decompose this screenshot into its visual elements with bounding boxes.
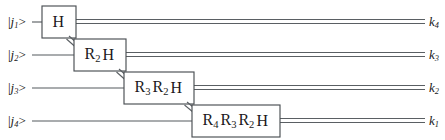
gate-label-3: R3R2H (124, 72, 194, 104)
gate-term: R2 (152, 79, 170, 98)
output-label-3: k2 (429, 81, 439, 97)
gate-term-base: H (52, 13, 64, 30)
gate-term-base: R (238, 111, 249, 128)
input-label-3: |j3> (8, 81, 26, 97)
output-label-4-subscript: 1 (435, 120, 439, 129)
gate-term: R4 (203, 112, 221, 131)
gate-term: H (256, 113, 269, 129)
gate-term-subscript: 2 (95, 53, 101, 64)
input-label-4: |j4> (8, 114, 26, 130)
gate-term-subscript: 2 (163, 86, 169, 97)
gate-term: R3 (135, 79, 153, 98)
gate-term-base: H (170, 79, 182, 96)
gate-term-subscript: 2 (249, 119, 255, 130)
gate-term: H (102, 47, 115, 63)
gate-term-base: R (152, 78, 163, 95)
gate-term-base: H (102, 46, 114, 63)
gate-label-4: R4R3R2H (192, 105, 280, 137)
gate-term-base: R (84, 45, 95, 62)
gate-term-subscript: 3 (231, 119, 237, 130)
gate-term: H (52, 14, 65, 30)
input-label-1: |j1> (8, 15, 26, 31)
gate-term-base: R (135, 78, 146, 95)
output-label-3-subscript: 2 (435, 87, 439, 96)
output-label-4: k1 (429, 114, 439, 130)
gate-term-base: H (256, 112, 268, 129)
gate-term-subscript: 3 (145, 86, 151, 97)
output-label-2: k3 (429, 48, 439, 64)
gate-label-1: H (42, 6, 76, 38)
gate-term-base: R (203, 111, 214, 128)
gate-term-base: R (220, 111, 231, 128)
gate-term: H (170, 80, 183, 96)
output-label-1-subscript: 4 (435, 21, 439, 30)
gate-term: R3 (220, 112, 238, 131)
input-label-2: |j2> (8, 48, 26, 64)
gate-term: R2 (238, 112, 256, 131)
output-label-1: k4 (429, 15, 439, 31)
quantum-circuit-diagram: |j1> |j2> |j3> |j4> k4 k3 k2 k1 H R2H R3… (0, 0, 445, 140)
gate-label-2: R2H (74, 39, 126, 71)
gate-term: R2 (84, 46, 102, 65)
gate-term-subscript: 4 (213, 119, 219, 130)
output-label-2-subscript: 3 (435, 54, 439, 63)
